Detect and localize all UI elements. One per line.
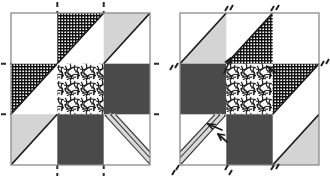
cell-r2c1-dark-square bbox=[57, 114, 103, 165]
cell-r1c1-mottled-center bbox=[226, 64, 272, 115]
tick-top-left bbox=[225, 5, 233, 11]
tick-mid-left-edge bbox=[170, 63, 178, 70]
tick-top-right bbox=[271, 5, 279, 11]
cell-r1c1-mottled-center bbox=[57, 64, 103, 115]
diagram-canvas bbox=[0, 0, 330, 181]
cell-r1c0-dark-square bbox=[180, 64, 226, 115]
tick-mid-right-edge bbox=[321, 59, 329, 66]
tick-bottom-mid bbox=[225, 165, 232, 175]
left-block bbox=[1, 2, 161, 176]
right-block bbox=[170, 5, 329, 175]
tick-bottom-left bbox=[172, 165, 179, 175]
cell-r2c1-dark-square bbox=[226, 114, 272, 165]
cell-r1c2-dark-square bbox=[104, 64, 150, 115]
quilt-diagram-figure bbox=[0, 0, 330, 181]
